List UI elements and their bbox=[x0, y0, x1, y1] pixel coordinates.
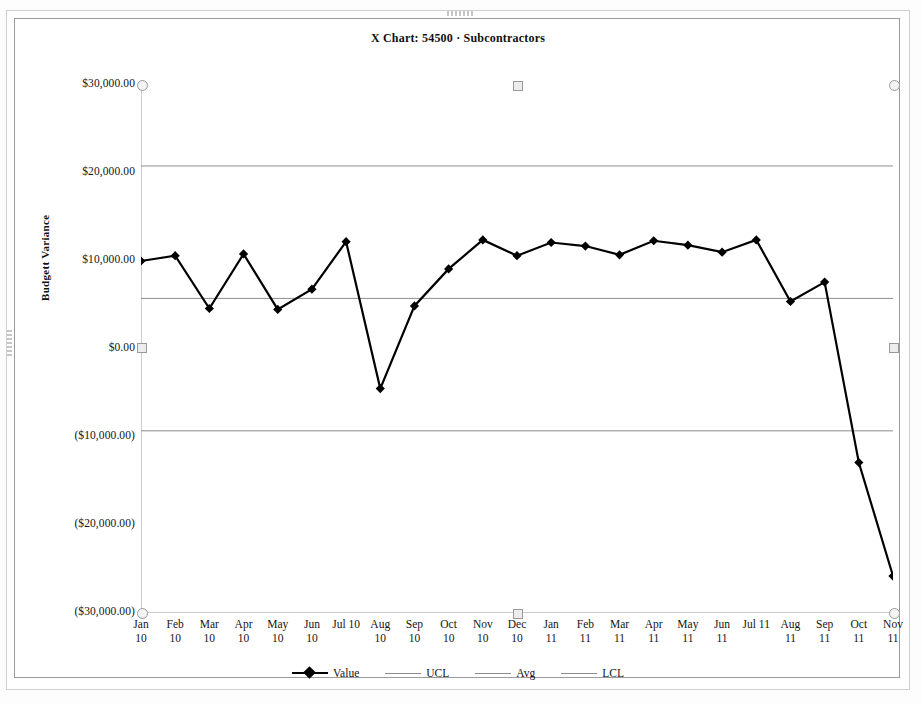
x-axis-tick-labels: Jan10Feb10Mar10Apr10May10Jun10Jul 10Aug1… bbox=[141, 617, 897, 663]
selection-handle-top[interactable] bbox=[447, 11, 473, 16]
series-marker-18[interactable] bbox=[752, 235, 761, 244]
legend-item-ucl[interactable]: UCL bbox=[385, 667, 449, 679]
plot-handle-top-left[interactable] bbox=[137, 80, 148, 91]
y-tick-label-3: $0.00 bbox=[109, 341, 135, 353]
chart-container[interactable]: X Chart: 54500 · Subcontractors Budgett … bbox=[14, 18, 900, 678]
series-line-value bbox=[141, 240, 893, 576]
y-tick-label-6: ($30,000.00) bbox=[74, 605, 135, 617]
legend-item-value[interactable]: Value bbox=[292, 667, 359, 679]
series-marker-20[interactable] bbox=[820, 278, 829, 287]
series-marker-11[interactable] bbox=[512, 251, 521, 260]
series-marker-14[interactable] bbox=[615, 250, 624, 259]
legend-item-avg[interactable]: Avg bbox=[475, 667, 535, 679]
scanned-page: X Chart: 54500 · Subcontractors Budgett … bbox=[0, 0, 922, 705]
selection-handle-left[interactable] bbox=[7, 330, 12, 356]
legend-swatch-avg-icon bbox=[475, 668, 511, 678]
x-tick-label-22: Nov11 bbox=[869, 617, 917, 645]
y-tick-label-4: ($10,000.00) bbox=[74, 429, 135, 441]
legend-label-ucl: UCL bbox=[426, 667, 449, 679]
legend-swatch-lcl-icon bbox=[561, 668, 597, 678]
series-marker-12[interactable] bbox=[547, 238, 556, 247]
chart-svg bbox=[141, 85, 893, 613]
series-marker-17[interactable] bbox=[717, 248, 726, 257]
legend-label-value: Value bbox=[333, 667, 359, 679]
chart-title: X Chart: 54500 · Subcontractors bbox=[15, 31, 901, 46]
plot-handle-middle-right[interactable] bbox=[889, 343, 899, 353]
series-marker-0[interactable] bbox=[141, 256, 146, 265]
series-marker-7[interactable] bbox=[376, 384, 385, 393]
plot-handle-top-center[interactable] bbox=[513, 81, 523, 91]
plot-handle-middle-left[interactable] bbox=[137, 343, 147, 353]
legend-label-lcl: LCL bbox=[602, 667, 624, 679]
y-tick-label-2: $10,000.00 bbox=[82, 253, 135, 265]
series-marker-22[interactable] bbox=[888, 571, 893, 580]
y-axis-tick-labels: $30,000.00$20,000.00$10,000.00$0.00($10,… bbox=[15, 79, 135, 619]
series-marker-13[interactable] bbox=[581, 241, 590, 250]
series-marker-16[interactable] bbox=[683, 241, 692, 250]
legend-label-avg: Avg bbox=[516, 667, 535, 679]
chart-legend: ValueUCLAvgLCL bbox=[15, 667, 901, 679]
plot-handle-top-right[interactable] bbox=[889, 80, 900, 91]
legend-swatch-value-icon bbox=[292, 668, 328, 678]
y-tick-label-0: $30,000.00 bbox=[82, 77, 135, 89]
plot-canvas[interactable] bbox=[141, 85, 893, 613]
series-marker-15[interactable] bbox=[649, 236, 658, 245]
legend-swatch-ucl-icon bbox=[385, 668, 421, 678]
y-tick-label-5: ($20,000.00) bbox=[74, 517, 135, 529]
legend-item-lcl[interactable]: LCL bbox=[561, 667, 624, 679]
plot-area[interactable] bbox=[141, 79, 897, 614]
y-tick-label-1: $20,000.00 bbox=[82, 165, 135, 177]
series-marker-21[interactable] bbox=[854, 458, 863, 467]
